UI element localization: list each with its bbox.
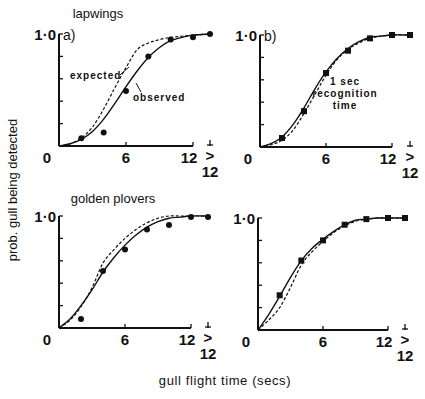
y-tick-label-1: 1·0	[233, 210, 255, 227]
data-point-square	[385, 215, 391, 221]
x-tick-label-gt12: 12	[200, 345, 217, 362]
x-tick-label-0: 0	[43, 331, 51, 348]
data-point-circle	[168, 37, 174, 43]
x-tick-label-6: 6	[122, 149, 130, 166]
x-tick-label-12: 12	[181, 149, 198, 166]
data-point-circle	[166, 222, 172, 228]
panel-c: 1·00612>12	[34, 208, 216, 362]
x-tick-label-gt: >	[204, 329, 213, 346]
data-point-circle	[100, 268, 106, 274]
annotation-recognition-2: recognition	[312, 88, 377, 99]
data-point-circle	[144, 226, 150, 232]
panel-d: 1·00612>12	[233, 210, 413, 364]
x-tick-label-gt: >	[401, 331, 410, 348]
expected-curve	[59, 216, 208, 328]
x-tick-label-6: 6	[322, 150, 330, 167]
data-point-square	[367, 35, 373, 41]
panel-label-b: b)	[264, 28, 276, 44]
data-point-circle	[122, 247, 128, 253]
data-point-square	[389, 32, 395, 38]
x-tick-label-gt: >	[406, 148, 415, 165]
data-point-circle	[145, 53, 151, 59]
annotation-expected: expected	[70, 70, 121, 81]
y-tick-label-1: 1·0	[34, 26, 56, 43]
expected-curve	[258, 218, 405, 330]
data-point-square	[342, 222, 348, 228]
x-tick-label-12: 12	[376, 333, 393, 350]
x-tick-label-gt12: 12	[402, 164, 419, 181]
annotation-recognition-3: time	[333, 100, 358, 111]
data-point-square	[279, 135, 285, 141]
data-point-square	[402, 215, 408, 221]
data-point-square	[407, 32, 413, 38]
x-tick-label-12: 12	[179, 331, 196, 348]
data-point-square	[301, 108, 307, 114]
x-tick-label-0: 0	[244, 150, 252, 167]
x-tick-label-6: 6	[319, 333, 327, 350]
row-title-golden-plovers: golden plovers	[71, 191, 156, 206]
x-tick-label-gt: >	[206, 147, 215, 164]
arrow-observed-icon	[136, 83, 141, 92]
y-axis-label: prob. gull being detected	[5, 119, 20, 261]
data-point-square	[320, 237, 326, 243]
x-tick-label-12: 12	[380, 150, 397, 167]
data-point-circle	[190, 34, 196, 40]
data-point-square	[363, 216, 369, 222]
panel-b: 1·00612>12b)1 secrecognitiontime	[235, 27, 418, 181]
figure: prob. gull being detected gull flight ti…	[0, 0, 425, 399]
data-point-circle	[78, 316, 84, 322]
annotation-observed: observed	[133, 92, 185, 103]
observed-curve	[59, 34, 210, 146]
panel-a: 1·00612>12a)expectedobserved	[34, 26, 218, 180]
data-point-circle	[205, 214, 211, 220]
data-point-square	[323, 70, 329, 76]
annotation-recognition-1: 1 sec	[330, 76, 360, 87]
x-axis-label: gull flight time (secs)	[159, 373, 291, 388]
observed-curve	[59, 216, 208, 328]
x-tick-label-6: 6	[121, 331, 129, 348]
data-point-square	[277, 292, 283, 298]
data-point-circle	[78, 135, 84, 141]
data-point-circle	[207, 31, 213, 37]
x-tick-label-0: 0	[43, 149, 51, 166]
data-point-circle	[101, 130, 107, 136]
row-title-lapwings: lapwings	[73, 6, 124, 21]
x-tick-label-0: 0	[242, 333, 250, 350]
data-point-circle	[188, 214, 194, 220]
x-tick-label-gt12: 12	[397, 347, 414, 364]
x-tick-label-gt12: 12	[202, 163, 219, 180]
expected-curve	[59, 34, 210, 146]
data-point-square	[345, 48, 351, 54]
data-point-square	[298, 258, 304, 264]
y-tick-label-1: 1·0	[235, 27, 257, 44]
panel-label-a: a)	[63, 27, 75, 43]
data-point-circle	[123, 88, 129, 94]
y-tick-label-1: 1·0	[34, 208, 56, 225]
